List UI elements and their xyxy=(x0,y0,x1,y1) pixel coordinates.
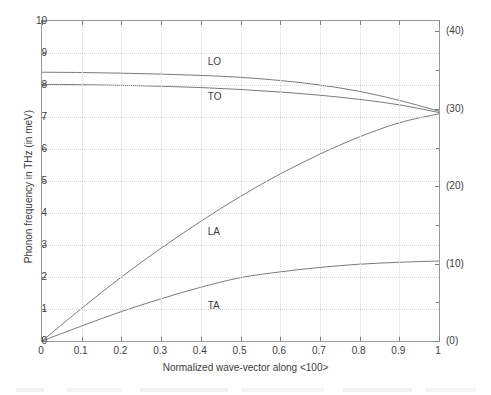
x-axis-tick xyxy=(241,337,242,341)
x-axis-tick xyxy=(280,21,281,25)
x-axis-tick-label: 0.9 xyxy=(383,346,413,356)
curve-label-la: LA xyxy=(208,226,220,237)
secondary-y-axis-tick xyxy=(435,264,439,265)
x-axis-tick xyxy=(320,21,321,25)
x-axis-tick-label: 0.2 xyxy=(105,346,135,356)
gridline-horizontal xyxy=(42,85,439,86)
secondary-y-axis-tick xyxy=(435,186,439,187)
secondary-y-axis-tick-label: (10) xyxy=(446,259,480,269)
secondary-y-axis-minor-tick xyxy=(436,225,439,226)
x-axis-tick xyxy=(439,21,440,25)
x-axis-tick xyxy=(241,21,242,25)
x-axis-tick xyxy=(399,337,400,341)
x-axis-tick xyxy=(360,21,361,25)
gridline-horizontal xyxy=(42,117,439,118)
curve-label-lo: LO xyxy=(208,56,221,67)
secondary-y-axis-tick-label: (0) xyxy=(446,336,480,346)
gridline-horizontal xyxy=(42,213,439,214)
secondary-y-axis-tick xyxy=(435,109,439,110)
plot-area xyxy=(41,20,440,342)
x-axis-tick xyxy=(121,337,122,341)
gridline-horizontal xyxy=(42,309,439,310)
x-axis-tick xyxy=(280,337,281,341)
x-axis-tick-label: 0 xyxy=(26,346,56,356)
x-axis-tick xyxy=(161,21,162,25)
secondary-y-axis-tick-label: (20) xyxy=(446,181,480,191)
x-axis-tick xyxy=(360,337,361,341)
gridline-horizontal xyxy=(42,53,439,54)
secondary-y-axis-tick-label: (40) xyxy=(446,26,480,36)
secondary-y-axis-tick xyxy=(435,31,439,32)
secondary-y-axis-minor-tick xyxy=(436,302,439,303)
x-axis-tick xyxy=(399,21,400,25)
secondary-y-axis-minor-tick xyxy=(436,148,439,149)
x-axis-tick-label: 0.3 xyxy=(145,346,175,356)
x-axis-tick xyxy=(439,337,440,341)
x-axis-tick-label: 0.7 xyxy=(304,346,334,356)
x-axis-tick xyxy=(201,21,202,25)
curve-label-to: TO xyxy=(208,91,222,102)
x-axis-tick-label: 0.8 xyxy=(344,346,374,356)
x-axis-tick-label: 0.5 xyxy=(225,346,255,356)
gridline-horizontal xyxy=(42,245,439,246)
phonon-dispersion-figure: 012345678910 (0)(10)(20)(30)(40) 00.10.2… xyxy=(0,0,491,395)
secondary-y-axis-minor-tick xyxy=(436,70,439,71)
y-axis-tick-label: 9 xyxy=(21,48,47,58)
x-axis-tick xyxy=(82,21,83,25)
curve-label-ta: TA xyxy=(208,300,220,311)
x-axis-tick xyxy=(161,337,162,341)
x-axis-tick-label: 1 xyxy=(423,346,453,356)
y-axis-title: Phonon frequency in THz (in meV) xyxy=(23,67,34,307)
y-axis-tick-label: 10 xyxy=(21,16,47,26)
x-axis-tick-label: 0.1 xyxy=(66,346,96,356)
x-axis-tick xyxy=(320,337,321,341)
x-axis-tick-label: 0.4 xyxy=(185,346,215,356)
page-caption-smudge xyxy=(16,388,476,392)
gridline-horizontal xyxy=(42,181,439,182)
x-axis-tick xyxy=(82,337,83,341)
x-axis-tick xyxy=(121,21,122,25)
secondary-y-axis-tick-label: (30) xyxy=(446,104,480,114)
gridline-horizontal xyxy=(42,277,439,278)
x-axis-title: Normalized wave-vector along <100> xyxy=(0,362,491,373)
secondary-y-axis-tick xyxy=(435,341,439,342)
gridline-horizontal xyxy=(42,149,439,150)
x-axis-tick-label: 0.6 xyxy=(264,346,294,356)
x-axis-tick xyxy=(201,337,202,341)
